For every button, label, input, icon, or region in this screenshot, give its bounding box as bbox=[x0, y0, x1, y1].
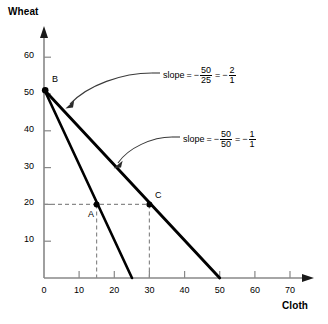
y-tick-label-40: 40 bbox=[16, 124, 34, 134]
point-marker-a bbox=[94, 201, 100, 207]
annotation-steep-minus-2: − bbox=[222, 71, 227, 80]
annotation-flat-minus: − bbox=[214, 135, 219, 144]
y-tick-label-20: 20 bbox=[16, 197, 34, 207]
y-axis-title: Wheat bbox=[8, 6, 39, 17]
x-tick-label-0: 0 bbox=[34, 285, 54, 295]
y-tick-label-60: 60 bbox=[16, 50, 34, 60]
annotation-flat-equals-2: = bbox=[235, 135, 240, 144]
annotation-leaders-group bbox=[65, 73, 180, 168]
point-label-b: B bbox=[52, 74, 58, 84]
annotation-steep-minus: − bbox=[194, 71, 199, 80]
annotation-steep-equals: = bbox=[187, 71, 192, 80]
annotation-flat-minus-2: − bbox=[242, 135, 247, 144]
guide-lines-group bbox=[44, 204, 149, 278]
annotation-flat-fraction-1: 50 50 bbox=[220, 130, 232, 149]
annotation-steep-fraction-2: 2 1 bbox=[229, 66, 236, 85]
chart-canvas bbox=[0, 0, 328, 324]
x-tick-label-70: 70 bbox=[280, 285, 300, 295]
ppf-chart: Wheat Cloth 60 50 40 30 20 10 0 10 20 30… bbox=[0, 0, 328, 324]
annotation-steep-prefix: slope bbox=[163, 71, 185, 80]
x-tick-label-60: 60 bbox=[245, 285, 265, 295]
annotation-flat-denominator-2: 1 bbox=[249, 140, 256, 149]
point-marker-b bbox=[42, 87, 49, 94]
y-tick-label-50: 50 bbox=[16, 87, 34, 97]
x-tick-label-40: 40 bbox=[175, 285, 195, 295]
annotation-steep-denominator-1: 25 bbox=[200, 76, 212, 85]
x-tick-label-10: 10 bbox=[69, 285, 89, 295]
x-tick-marks bbox=[79, 271, 290, 278]
point-label-a: A bbox=[88, 209, 94, 219]
x-tick-label-30: 30 bbox=[139, 285, 159, 295]
ppf-line-steep bbox=[45, 90, 132, 278]
annotation-steep-denominator-2: 1 bbox=[229, 76, 236, 85]
annotation-slope-flat: slope = − 50 50 = − 1 1 bbox=[183, 130, 257, 149]
annotation-flat-prefix: slope bbox=[183, 135, 205, 144]
annotation-flat-fraction-2: 1 1 bbox=[249, 130, 256, 149]
annotation-steep-fraction-1: 50 25 bbox=[200, 66, 212, 85]
x-axis-arrow-icon bbox=[302, 274, 314, 282]
point-marker-c bbox=[146, 201, 152, 207]
leader-curve-flat bbox=[118, 137, 172, 163]
y-tick-marks bbox=[44, 57, 51, 241]
y-tick-label-30: 30 bbox=[16, 161, 34, 171]
leader-curve-steep bbox=[70, 73, 152, 104]
axes-group bbox=[40, 26, 314, 282]
ppf-line-flat bbox=[45, 90, 220, 278]
x-tick-label-20: 20 bbox=[104, 285, 124, 295]
annotation-slope-steep: slope = − 50 25 = − 2 1 bbox=[163, 66, 237, 85]
x-tick-label-50: 50 bbox=[210, 285, 230, 295]
y-axis-arrow-icon bbox=[40, 26, 48, 38]
annotation-flat-equals: = bbox=[207, 135, 212, 144]
y-tick-label-10: 10 bbox=[16, 234, 34, 244]
annotation-steep-equals-2: = bbox=[215, 71, 220, 80]
x-axis-title: Cloth bbox=[282, 300, 308, 311]
annotation-flat-denominator-1: 50 bbox=[220, 140, 232, 149]
ppf-lines-group bbox=[45, 90, 220, 278]
point-label-c: C bbox=[155, 190, 162, 200]
